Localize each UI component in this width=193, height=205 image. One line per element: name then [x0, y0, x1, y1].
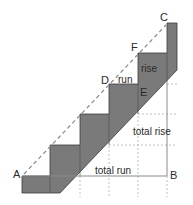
rise-label: rise [141, 63, 158, 74]
run-label: run [118, 74, 132, 85]
point-label-d: D [101, 74, 109, 86]
stair-diagram: A B C D E F run rise total rise total ru… [0, 0, 193, 205]
point-label-b: B [170, 169, 177, 181]
point-label-f: F [131, 41, 138, 53]
point-label-e: E [140, 86, 147, 98]
total-run-label: total run [95, 165, 131, 176]
point-label-c: C [160, 11, 168, 23]
total-rise-label: total rise [133, 126, 171, 137]
diagram-canvas: A B C D E F run rise total rise total ru… [0, 0, 193, 205]
point-label-a: A [13, 168, 21, 180]
